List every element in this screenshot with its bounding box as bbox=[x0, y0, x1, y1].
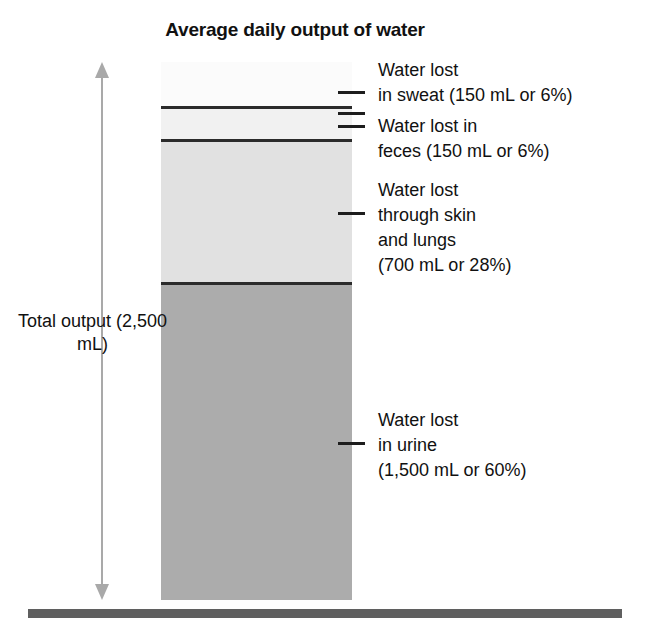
leader-line-sweat-upper bbox=[338, 112, 365, 115]
baseline-rule bbox=[28, 609, 622, 618]
callout-feces-line-2: feces (150 mL or 6%) bbox=[378, 139, 549, 164]
segment-divider-feces-skin bbox=[161, 139, 352, 142]
callout-urine-line-1: Water lost bbox=[378, 408, 526, 433]
total-output-label-line-1: Total output bbox=[18, 311, 111, 331]
arrow-down-icon bbox=[95, 584, 109, 600]
callout-feces-line-1: Water lost in bbox=[378, 114, 549, 139]
bar-segment-feces bbox=[161, 107, 352, 140]
stacked-bar bbox=[161, 62, 352, 600]
callout-skin-and-lungs: Water lost through skin and lungs (700 m… bbox=[378, 178, 511, 278]
callout-sweat-line-2: in sweat (150 mL or 6%) bbox=[378, 83, 572, 108]
segment-divider-sweat-feces bbox=[161, 106, 352, 109]
page-title: Average daily output of water bbox=[0, 19, 590, 41]
leader-line-skin-and-lungs bbox=[338, 212, 365, 215]
leader-line-sweat bbox=[338, 91, 365, 94]
callout-urine-line-3: (1,500 mL or 60%) bbox=[378, 458, 526, 483]
callout-skin-line-2: through skin bbox=[378, 203, 511, 228]
segment-divider-skin-urine bbox=[161, 282, 352, 285]
water-output-figure: Average daily output of water Total outp… bbox=[0, 0, 649, 628]
bar-segment-urine bbox=[161, 283, 352, 600]
callout-urine: Water lost in urine (1,500 mL or 60%) bbox=[378, 408, 526, 483]
bar-segment-skin-and-lungs bbox=[161, 140, 352, 283]
total-output-label: Total output (2,500 mL) bbox=[0, 310, 185, 356]
callout-skin-line-1: Water lost bbox=[378, 178, 511, 203]
bar-segment-sweat bbox=[161, 62, 352, 107]
callout-skin-line-4: (700 mL or 28%) bbox=[378, 253, 511, 278]
callout-sweat-line-1: Water lost bbox=[378, 58, 572, 83]
callout-urine-line-2: in urine bbox=[378, 433, 526, 458]
leader-line-feces bbox=[338, 125, 365, 128]
leader-line-urine bbox=[338, 442, 365, 445]
callout-skin-line-3: and lungs bbox=[378, 228, 511, 253]
callout-sweat: Water lost in sweat (150 mL or 6%) bbox=[378, 58, 572, 108]
callout-feces: Water lost in feces (150 mL or 6%) bbox=[378, 114, 549, 164]
